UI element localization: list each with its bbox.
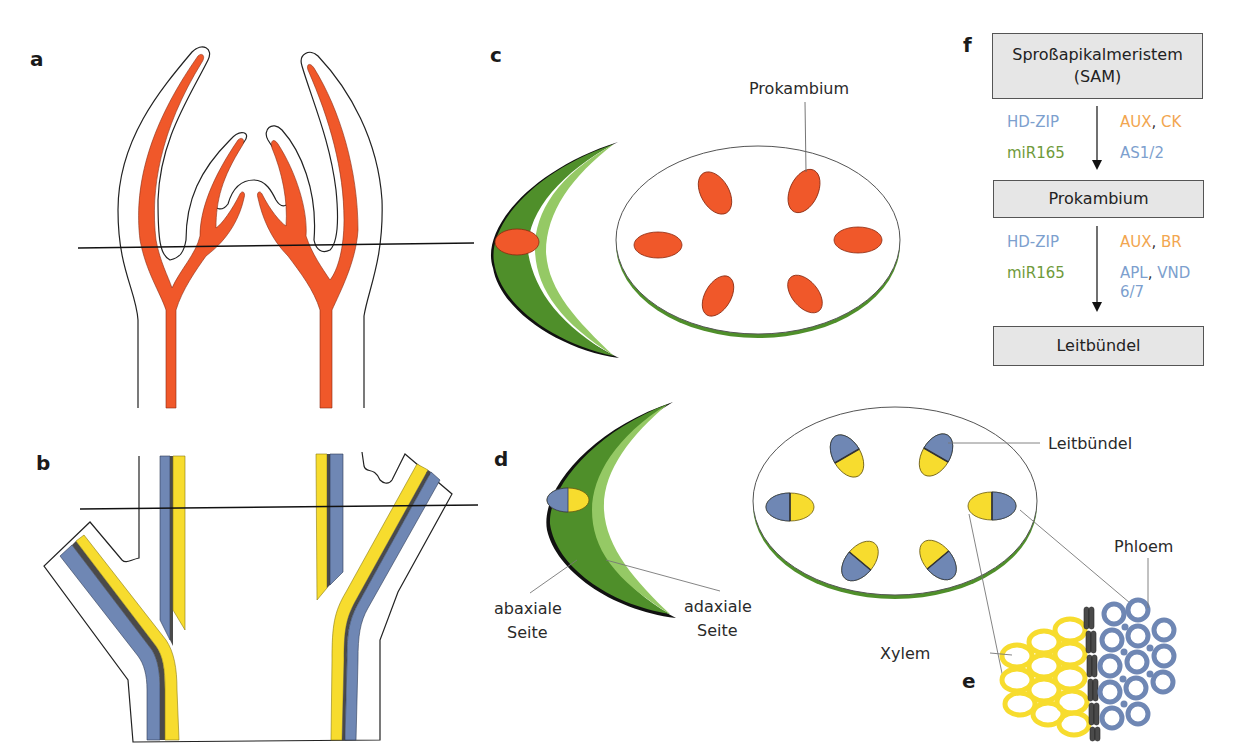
reg-aux-1: AUX <box>1120 113 1152 131</box>
panel-letter-d: d <box>494 447 508 471</box>
vascular-bundle <box>968 492 1016 520</box>
section-line-a <box>78 243 474 248</box>
prokambium-leaf-c <box>495 229 539 255</box>
label-phloem: Phloem <box>1114 537 1173 556</box>
reg-hd-zip-1: HD-ZIP <box>1007 112 1059 132</box>
zoom-line-phloem <box>1020 510 1130 603</box>
reg-aux-2: AUX <box>1120 233 1152 251</box>
leaf-crescent-d: abaxiale Seite adaxiale Seite <box>494 402 752 642</box>
shoot-apex-outline <box>118 47 382 408</box>
panel-letter-c: c <box>490 43 502 67</box>
flow-box-sam-line2: (SAM) <box>993 66 1202 88</box>
flow-box-sam-line1: Sproßapikalmeristem <box>993 44 1202 66</box>
phloem-cells <box>1100 600 1174 728</box>
panel-letter-e: e <box>962 669 976 693</box>
bundle-leaf-d <box>547 488 589 512</box>
arrowhead-1 <box>1092 160 1102 170</box>
flow-box-prokambium: Prokambium <box>993 180 1204 218</box>
vascular-bundle <box>766 493 814 521</box>
reg-br: BR <box>1161 233 1182 251</box>
label-prokambium-c: Prokambium <box>749 79 849 98</box>
bundle-right-upper <box>316 454 343 600</box>
panel-d: d abaxiale Seite adaxiale Seite <box>494 402 1132 642</box>
panel-letter-f: f <box>963 33 972 57</box>
leaf-crescent-c <box>491 142 619 358</box>
reg-vnd: VND <box>1157 264 1190 282</box>
prokambium-strands-a <box>139 54 358 408</box>
label-abaxial-2: Seite <box>507 623 548 642</box>
label-leitbuendel-d: Leitbündel <box>1048 434 1132 453</box>
label-adaxial-2: Seite <box>697 621 738 640</box>
reg-mir165-1: miR165 <box>1007 143 1065 163</box>
reg-hormones-2: AUX, BR <box>1120 232 1182 252</box>
label-adaxial-1: adaxiale <box>684 597 752 616</box>
abaxial-leader <box>530 560 577 593</box>
panel-c: c Prokambium <box>490 43 900 358</box>
reg-as1-2: AS1/2 <box>1120 143 1164 163</box>
panel-a: a <box>30 47 474 408</box>
bundle-left-upper <box>160 456 185 646</box>
reg-hormones-1: AUX, CK <box>1120 112 1181 132</box>
reg-mir165-2: miR165 <box>1007 263 1065 283</box>
flow-box-sam: Sproßapikalmeristem (SAM) <box>992 33 1203 99</box>
reg-ck: CK <box>1161 113 1181 131</box>
xylem-cells <box>1002 619 1089 735</box>
panel-letter-a: a <box>30 47 44 71</box>
stem-disc-c: Prokambium <box>616 79 900 338</box>
label-abaxial-1: abaxiale <box>494 599 562 618</box>
panel-letter-b: b <box>36 451 50 475</box>
stem-disc-d: Leitbündel <box>753 407 1132 599</box>
reg-vnd-6-7: 6/7 <box>1120 282 1144 302</box>
label-xylem: Xylem <box>880 644 930 663</box>
reg-apl-vnd: APL, VND <box>1120 263 1190 283</box>
arrowhead-2 <box>1092 302 1102 312</box>
reg-hd-zip-2: HD-ZIP <box>1007 232 1059 252</box>
flow-box-leitbuendel: Leitbündel <box>993 326 1204 366</box>
reg-apl: APL <box>1120 264 1148 282</box>
panel-b: b <box>36 451 478 742</box>
